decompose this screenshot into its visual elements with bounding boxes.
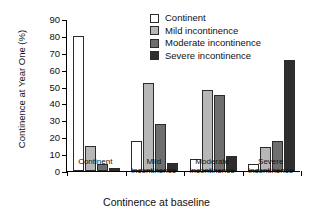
legend-label: Severe incontinence: [165, 51, 251, 61]
x-axis-category-label: Severeincontinence: [230, 157, 312, 175]
bar: [284, 60, 295, 171]
bar-group-bars: [67, 19, 126, 171]
x-axis-category-label-line: incontinence: [230, 166, 312, 175]
y-axis-tick-label: 40: [49, 100, 60, 110]
legend-item: Mild incontinence: [150, 25, 261, 38]
bar-chart-figure: Continence at Year One (%) 0102030405060…: [0, 0, 313, 216]
legend-item: Continent: [150, 12, 261, 25]
legend-swatch: [150, 39, 159, 48]
y-axis-tick-label: 30: [49, 117, 60, 127]
x-axis-title: Continence at baseline: [0, 196, 313, 208]
legend-label: Moderate incontinence: [165, 38, 261, 48]
y-axis-tick-label: 50: [49, 83, 60, 93]
chart-legend: ContinentMild incontinenceModerate incon…: [150, 12, 261, 62]
legend-item: Moderate incontinence: [150, 37, 261, 50]
y-axis-tick-label: 60: [49, 66, 60, 76]
legend-label: Mild incontinence: [165, 26, 238, 36]
y-axis-tick-label: 90: [49, 15, 60, 25]
legend-swatch: [150, 51, 159, 60]
y-axis-title: Continence at Year One (%): [17, 9, 27, 169]
bar: [73, 36, 84, 171]
legend-swatch: [150, 14, 159, 23]
bar-group: [67, 19, 126, 171]
legend-item: Severe incontinence: [150, 50, 261, 63]
legend-label: Continent: [165, 13, 206, 23]
x-axis-category-label-line: Severe: [230, 157, 312, 166]
x-axis-tick: [67, 171, 68, 176]
y-axis-tick-label: 80: [49, 32, 60, 42]
y-axis-tick-label: 0: [55, 167, 60, 177]
legend-swatch: [150, 26, 159, 35]
y-axis-tick-label: 20: [49, 133, 60, 143]
y-axis-tick-label: 70: [49, 49, 60, 59]
